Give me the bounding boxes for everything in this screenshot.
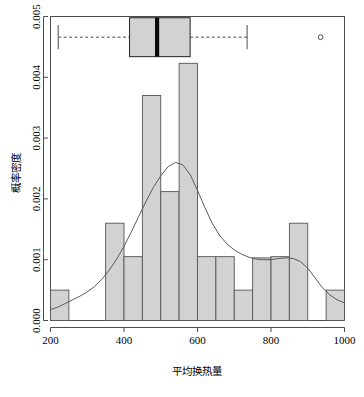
x-axis-tick-label: 600 <box>189 334 206 346</box>
histogram-bar <box>161 192 179 321</box>
y-axis-tick-label: 0.005 <box>30 4 42 29</box>
histogram-bar <box>289 223 307 320</box>
histogram-bar <box>216 257 234 321</box>
box-iqr-rect <box>130 18 191 57</box>
x-axis-tick-label: 1000 <box>334 334 357 346</box>
y-axis-tick-label: 0.001 <box>30 247 42 272</box>
histogram-bar <box>198 257 216 321</box>
histogram-bar <box>253 258 271 321</box>
histogram-bar <box>124 257 142 321</box>
histogram-bar <box>271 257 289 321</box>
histogram-bar <box>142 96 160 321</box>
histogram-bar <box>51 290 69 320</box>
y-axis-tick-label: 0.004 <box>30 64 42 89</box>
histogram-bar <box>234 290 252 320</box>
y-axis-tick-label: 0.003 <box>30 125 42 150</box>
y-axis-title: 概率密度 <box>10 152 22 193</box>
histogram-bar <box>179 63 197 320</box>
figure-container: 2004006008001000 0.0000.0010.0020.0030.0… <box>0 0 364 397</box>
histogram-boxplot-chart: 2004006008001000 0.0000.0010.0020.0030.0… <box>0 0 364 397</box>
x-axis-tick-label: 200 <box>42 334 59 346</box>
x-axis-tick-label: 400 <box>116 334 133 346</box>
x-axis-tick-label: 800 <box>263 334 280 346</box>
y-axis-tick-label: 0.002 <box>30 187 42 212</box>
x-axis-title: 平均换热量 <box>172 365 223 377</box>
y-axis-tick-label: 0.000 <box>30 308 42 333</box>
